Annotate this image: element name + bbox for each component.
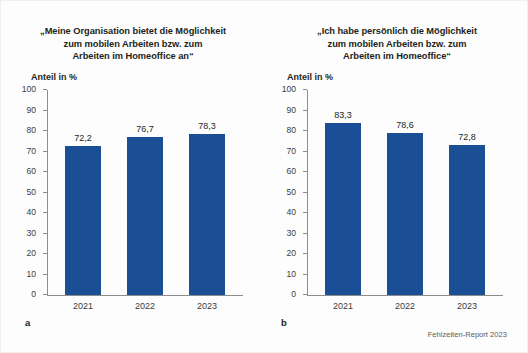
y-tick-label-b: 50 — [286, 187, 296, 197]
y-tick-label-b: 90 — [286, 105, 296, 115]
y-axis-line-a — [47, 90, 48, 296]
y-tick-label-b: 100 — [282, 84, 296, 94]
y-tick-a: 90 — [43, 110, 47, 111]
bar-value-b-2023: 72,8 — [458, 132, 476, 142]
x-axis-line-a — [47, 295, 243, 296]
x-tick-label-b-2021: 2021 — [333, 301, 353, 311]
y-tick-label-a: 70 — [26, 146, 36, 156]
figure-container: „Meine Organisation bietet die Möglichke… — [0, 0, 528, 353]
y-tick-label-b: 20 — [286, 248, 296, 258]
y-tick-label-a: 80 — [26, 125, 36, 135]
y-tick-b: 40 — [303, 212, 307, 213]
y-tick-b: 90 — [303, 110, 307, 111]
title-line: „Meine Organisation bietet die Möglichke… — [15, 25, 251, 38]
bar-b-2021[interactable]: 83,3 2021 — [325, 123, 361, 295]
title-line: zum mobilen Arbeiten bzw. zum — [279, 38, 515, 51]
title-line: zum mobilen Arbeiten bzw. zum — [15, 38, 251, 51]
title-line: Arbeiten im Homeoffice“ — [279, 50, 515, 63]
y-tick-b: 30 — [303, 233, 307, 234]
panels-row: „Meine Organisation bietet die Möglichke… — [1, 1, 528, 313]
chart-title-a: „Meine Organisation bietet die Möglichke… — [15, 25, 251, 63]
y-tick-a: 70 — [43, 151, 47, 152]
y-tick-b: 0 — [303, 294, 307, 295]
bar-a-2021[interactable]: 72,2 2021 — [65, 146, 101, 295]
x-tick-label-b-2023: 2023 — [457, 301, 477, 311]
panel-letter-b: b — [281, 317, 287, 328]
x-tick-label-b-2022: 2022 — [395, 301, 415, 311]
y-tick-label-a: 0 — [31, 289, 36, 299]
bar-value-a-2022: 76,7 — [136, 124, 154, 134]
panel-letter-a: a — [25, 317, 30, 328]
x-tick-label-a-2022: 2022 — [135, 301, 155, 311]
bar-value-a-2023: 78,3 — [198, 121, 216, 131]
y-tick-label-b: 80 — [286, 125, 296, 135]
bar-value-b-2022: 78,6 — [396, 120, 414, 130]
y-tick-label-a: 100 — [22, 84, 36, 94]
y-tick-label-a: 90 — [26, 105, 36, 115]
bar-value-a-2021: 72,2 — [74, 133, 92, 143]
y-tick-label-b: 60 — [286, 166, 296, 176]
y-tick-b: 20 — [303, 253, 307, 254]
y-tick-a: 40 — [43, 212, 47, 213]
y-tick-label-a: 10 — [26, 269, 36, 279]
y-tick-label-b: 70 — [286, 146, 296, 156]
y-tick-label-a: 20 — [26, 248, 36, 258]
y-tick-b: 10 — [303, 274, 307, 275]
y-tick-label-b: 40 — [286, 207, 296, 217]
y-tick-a: 30 — [43, 233, 47, 234]
y-tick-a: 50 — [43, 192, 47, 193]
x-tick-label-a-2023: 2023 — [197, 301, 217, 311]
bar-a-2023[interactable]: 78,3 2023 — [189, 134, 225, 295]
chart-title-b: „Ich habe persönlich die Möglichkeit zum… — [279, 25, 515, 63]
y-tick-label-a: 50 — [26, 187, 36, 197]
y-tick-a: 100 — [43, 89, 47, 90]
bar-value-b-2021: 83,3 — [334, 110, 352, 120]
bar-b-2023[interactable]: 72,8 2023 — [449, 145, 485, 295]
y-axis-line-b — [307, 90, 308, 296]
y-tick-a: 10 — [43, 274, 47, 275]
y-tick-a: 20 — [43, 253, 47, 254]
y-tick-b: 60 — [303, 171, 307, 172]
bar-b-2022[interactable]: 78,6 2022 — [387, 133, 423, 295]
chart-panel-a: „Meine Organisation bietet die Möglichke… — [1, 1, 265, 313]
chart-panel-b: „Ich habe persönlich die Möglichkeit zum… — [265, 1, 528, 313]
plot-area-a: 0 10 20 30 40 50 60 70 80 90 — [47, 90, 243, 296]
title-line: Arbeiten im Homeoffice an“ — [15, 50, 251, 63]
y-tick-a: 0 — [43, 294, 47, 295]
x-tick-label-a-2021: 2021 — [73, 301, 93, 311]
y-tick-a: 80 — [43, 130, 47, 131]
title-line: „Ich habe persönlich die Möglichkeit — [279, 25, 515, 38]
y-tick-b: 80 — [303, 130, 307, 131]
bar-a-2022[interactable]: 76,7 2022 — [127, 137, 163, 295]
source-note: Fehlzeiten-Report 2023 — [428, 330, 507, 339]
y-tick-b: 50 — [303, 192, 307, 193]
y-tick-label-b: 30 — [286, 228, 296, 238]
x-axis-line-b — [307, 295, 503, 296]
y-tick-label-a: 60 — [26, 166, 36, 176]
y-tick-label-b: 10 — [286, 269, 296, 279]
y-tick-b: 70 — [303, 151, 307, 152]
y-axis-label-a: Anteil in % — [31, 72, 77, 82]
y-tick-label-b: 0 — [291, 289, 296, 299]
plot-area-b: 0 10 20 30 40 50 60 70 80 90 — [307, 90, 503, 296]
y-tick-b: 100 — [303, 89, 307, 90]
y-tick-a: 60 — [43, 171, 47, 172]
y-axis-label-b: Anteil in % — [287, 72, 333, 82]
y-tick-label-a: 40 — [26, 207, 36, 217]
y-tick-label-a: 30 — [26, 228, 36, 238]
